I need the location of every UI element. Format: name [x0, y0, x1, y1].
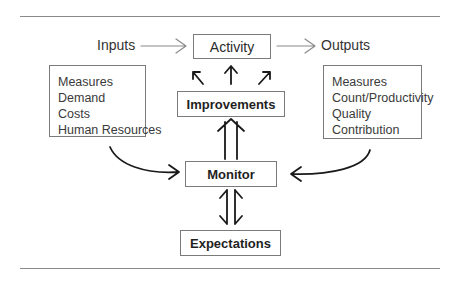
inputs-to-monitor-curved-arrow-icon — [110, 147, 179, 179]
activity-to-outputs-arrow-icon — [277, 39, 315, 53]
outputs-to-monitor-curved-arrow-icon — [291, 150, 370, 181]
monitor-to-improvements-double-arrow-icon — [218, 119, 244, 159]
connector-arrows — [0, 0, 475, 282]
improvements-to-activity-right-arrow-icon — [259, 72, 270, 84]
improvements-to-activity-center-arrow-icon — [225, 66, 237, 84]
improvements-to-activity-left-arrow-icon — [193, 72, 203, 84]
input-output-arrows — [141, 39, 315, 53]
inputs-to-activity-arrow-icon — [141, 39, 186, 53]
monitor-expectations-bidirectional-arrow-icon — [220, 190, 242, 224]
